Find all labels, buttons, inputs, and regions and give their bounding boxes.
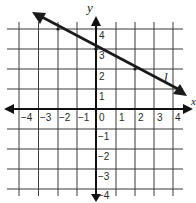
point-0-3 [94, 47, 98, 51]
y-tick-label: −1 [98, 131, 110, 142]
x-tick-label: 2 [138, 112, 144, 123]
y-tick-label: 2 [99, 71, 105, 82]
x-tick-label: 3 [157, 112, 163, 123]
y-tick-label: −3 [98, 171, 110, 182]
origin-label: 0 [99, 112, 105, 123]
coordinate-plane: y x l −4 −3 −2 −1 0 1 2 3 4 4 3 2 1 −1 −… [0, 0, 196, 203]
x-tick-label: 4 [175, 112, 181, 123]
y-tick-label: −2 [98, 151, 110, 162]
y-axis-label: y [85, 0, 93, 15]
y-tick-label: 1 [99, 91, 105, 102]
x-tick-label: −2 [59, 112, 71, 123]
y-tick-label: −4 [98, 190, 110, 201]
x-tick-label: −4 [21, 112, 33, 123]
point-2-2 [133, 67, 136, 70]
y-tick-label: 4 [99, 30, 105, 41]
line-l-lower-arrow-icon [173, 84, 187, 96]
x-tick-label: −1 [78, 112, 90, 123]
x-tick-label: 1 [119, 112, 125, 123]
x-axis-left-arrow-icon [4, 104, 14, 114]
x-tick-label: −3 [40, 112, 52, 123]
x-axis-label: x [190, 95, 196, 107]
y-axis-up-arrow-icon [91, 16, 101, 26]
x-tick-labels: −4 −3 −2 −1 0 1 2 3 4 [21, 112, 181, 123]
y-tick-label: 3 [99, 50, 105, 61]
line-l-label: l [164, 70, 168, 85]
point-neg2-4 [56, 27, 59, 30]
